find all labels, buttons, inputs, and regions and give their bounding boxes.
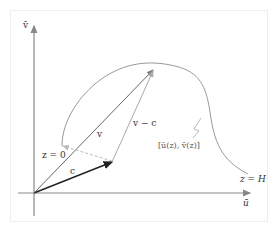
vector-v-label: v bbox=[96, 129, 103, 139]
z0-label: z = 0 bbox=[42, 150, 66, 160]
hodograph-diagram: v̄ ū z = 0 z = H [ū(z), v̄(z)] c v v − c bbox=[0, 0, 277, 231]
vector-v bbox=[34, 70, 153, 193]
zH-label: z = H bbox=[239, 174, 266, 184]
curve-point-label: [ū(z), v̄(z)] bbox=[158, 141, 200, 150]
squiggle-pointer-icon bbox=[193, 118, 201, 138]
vector-v-minus-c bbox=[112, 71, 153, 162]
y-axis-label: v̄ bbox=[22, 20, 29, 30]
vector-v-minus-c-label: v − c bbox=[132, 118, 156, 128]
vector-c-label: c bbox=[70, 166, 75, 176]
x-axis-label: ū bbox=[243, 198, 249, 208]
dashed-vector bbox=[63, 146, 112, 161]
